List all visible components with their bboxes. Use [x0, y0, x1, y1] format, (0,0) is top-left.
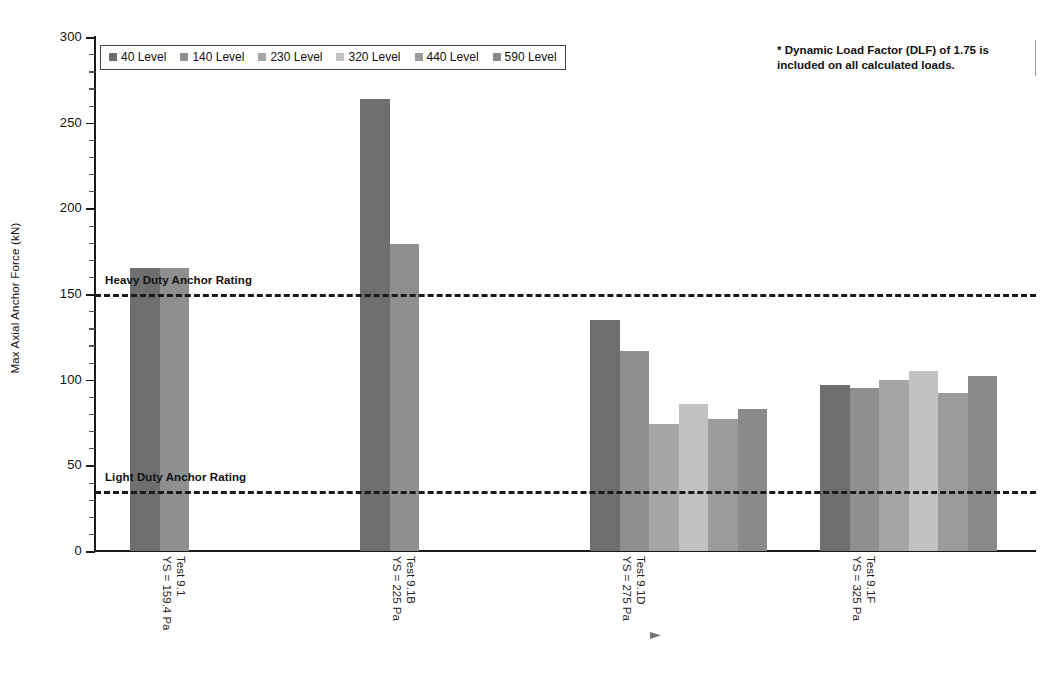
bar — [360, 99, 390, 551]
category-label-line: YS = 159.4 Pa — [159, 556, 173, 677]
y-tick-major — [86, 123, 95, 125]
reference-line-label: Heavy Duty Anchor Rating — [105, 274, 252, 286]
category-label-line: Test 9.1F — [864, 556, 878, 677]
bar-chart: 050100150200250300 Max Axial Anchor Forc… — [0, 0, 1052, 677]
y-tick-label: 150 — [38, 286, 82, 301]
y-axis-title: Max Axial Anchor Force (kN) — [9, 78, 21, 518]
bar — [938, 393, 968, 551]
bar — [590, 320, 620, 551]
bar — [160, 268, 190, 551]
dlf-note-box: * Dynamic Load Factor (DLF) of 1.75 is i… — [773, 40, 1036, 76]
legend-label: 440 Level — [427, 50, 479, 64]
bar — [968, 376, 998, 551]
bar — [820, 385, 850, 551]
legend-item[interactable]: 40 Level — [109, 50, 166, 64]
bar — [390, 244, 420, 551]
y-tick-label: 100 — [38, 372, 82, 387]
bar — [850, 388, 880, 551]
legend-label: 230 Level — [270, 50, 322, 64]
x-axis-category-label: Test 9.1FYS = 325 Pa — [849, 556, 878, 677]
scan-artifact-marker-icon — [650, 632, 661, 639]
y-tick-label: 300 — [38, 29, 82, 44]
bar — [649, 424, 679, 551]
bar — [620, 351, 650, 552]
legend-item[interactable]: 140 Level — [180, 50, 244, 64]
legend-label: 140 Level — [192, 50, 244, 64]
legend-label: 590 Level — [505, 50, 557, 64]
y-tick-label: 200 — [38, 200, 82, 215]
category-label-line: YS = 225 Pa — [389, 556, 403, 677]
legend-label: 40 Level — [121, 50, 166, 64]
y-tick-major — [86, 380, 95, 382]
category-label-line: Test 9.1D — [634, 556, 648, 677]
bar — [909, 371, 939, 551]
y-tick-label: 0 — [38, 543, 82, 558]
legend-item[interactable]: 590 Level — [493, 50, 557, 64]
legend-swatch-icon — [493, 53, 501, 61]
y-tick-major — [86, 551, 95, 553]
legend-swatch-icon — [180, 53, 188, 61]
category-label-line: Test 9.1 — [174, 556, 188, 677]
y-tick-major — [86, 465, 95, 467]
legend-swatch-icon — [336, 53, 344, 61]
legend-swatch-icon — [415, 53, 423, 61]
reference-line — [95, 491, 1036, 494]
dlf-note-line-2: included on all calculated loads. — [777, 57, 1029, 72]
x-axis-category-label: Test 9.1YS = 159.4 Pa — [159, 556, 188, 677]
dlf-note-line-1: * Dynamic Load Factor (DLF) of 1.75 is — [777, 42, 1029, 57]
y-tick-label: 50 — [38, 457, 82, 472]
bar — [130, 268, 160, 551]
legend-item[interactable]: 440 Level — [415, 50, 479, 64]
legend-item[interactable]: 230 Level — [258, 50, 322, 64]
category-label-line: YS = 275 Pa — [619, 556, 633, 677]
legend-label: 320 Level — [348, 50, 400, 64]
bar — [738, 409, 768, 551]
y-tick-major — [86, 294, 95, 296]
y-tick-label: 250 — [38, 115, 82, 130]
legend-swatch-icon — [258, 53, 266, 61]
bar — [879, 380, 909, 551]
reference-line-label: Light Duty Anchor Rating — [105, 471, 246, 483]
y-tick-major — [86, 37, 95, 39]
category-label-line: YS = 325 Pa — [849, 556, 863, 677]
x-axis-category-label: Test 9.1DYS = 275 Pa — [619, 556, 648, 677]
y-tick-major — [86, 208, 95, 210]
x-axis-category-label: Test 9.1BYS = 225 Pa — [389, 556, 418, 677]
bar — [679, 404, 709, 551]
reference-line — [95, 294, 1036, 297]
bar — [708, 419, 738, 551]
legend-item[interactable]: 320 Level — [336, 50, 400, 64]
category-label-line: Test 9.1B — [404, 556, 418, 677]
legend-swatch-icon — [109, 53, 117, 61]
legend[interactable]: 40 Level140 Level230 Level320 Level440 L… — [100, 45, 566, 70]
